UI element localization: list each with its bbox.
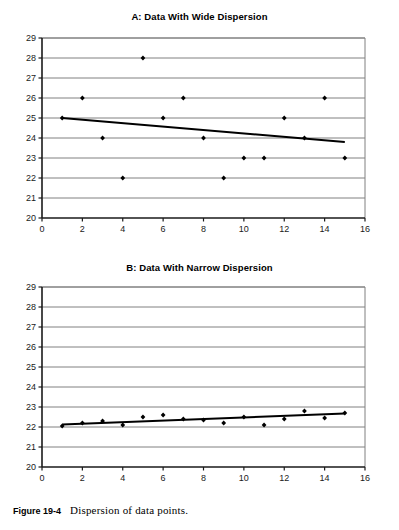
x-tick-label-14: 14 [320, 224, 330, 234]
y-tick-label-25: 25 [26, 113, 36, 123]
figure-caption-label: Figure 19-4 [13, 506, 61, 516]
data-point [282, 417, 287, 422]
y-tick-label-23: 23 [26, 153, 36, 163]
x-tick-label-10: 10 [239, 224, 249, 234]
data-point [282, 116, 287, 121]
data-point [161, 116, 166, 121]
chart-b-svg: 202122232425262728290246810121416 [0, 273, 399, 483]
y-tick-label-29: 29 [26, 33, 36, 43]
data-point [181, 96, 186, 101]
data-point [161, 413, 166, 418]
y-tick-label-22: 22 [26, 173, 36, 183]
y-tick-label-26: 26 [26, 93, 36, 103]
data-point [221, 421, 226, 426]
x-tick-label-14: 14 [320, 473, 330, 483]
data-point [80, 96, 85, 101]
data-point [141, 56, 146, 61]
x-tick-label-4: 4 [120, 473, 125, 483]
y-tick-label-29: 29 [26, 282, 36, 292]
data-point [262, 156, 267, 161]
x-tick-label-2: 2 [80, 473, 85, 483]
data-point [241, 156, 246, 161]
x-tick-label-12: 12 [279, 473, 289, 483]
y-tick-label-24: 24 [26, 133, 36, 143]
figure-19-4: A: Data With Wide Dispersion 20212223242… [0, 0, 399, 530]
chart-a-plot: 202122232425262728290246810121416 [0, 22, 399, 247]
y-tick-label-24: 24 [26, 382, 36, 392]
y-tick-label-21: 21 [26, 442, 36, 452]
data-point [201, 136, 206, 141]
figure-caption: Figure 19-4Dispersion of data points. [13, 504, 188, 516]
x-tick-label-8: 8 [201, 473, 206, 483]
y-tick-label-25: 25 [26, 362, 36, 372]
x-tick-label-16: 16 [360, 473, 370, 483]
x-tick-label-2: 2 [80, 224, 85, 234]
chart-panel-a: A: Data With Wide Dispersion 20212223242… [0, 0, 399, 252]
data-point [60, 116, 65, 121]
y-tick-label-20: 20 [26, 213, 36, 223]
x-tick-label-0: 0 [39, 224, 44, 234]
chart-a-title: A: Data With Wide Dispersion [0, 0, 399, 22]
chart-a-svg: 202122232425262728290246810121416 [0, 22, 399, 247]
x-tick-label-6: 6 [161, 224, 166, 234]
data-point [221, 176, 226, 181]
data-point [342, 156, 347, 161]
data-point [241, 415, 246, 420]
x-tick-label-12: 12 [279, 224, 289, 234]
y-tick-label-23: 23 [26, 402, 36, 412]
x-tick-label-10: 10 [239, 473, 249, 483]
data-point [302, 409, 307, 414]
y-tick-label-27: 27 [26, 73, 36, 83]
y-tick-label-28: 28 [26, 53, 36, 63]
chart-b-plot: 202122232425262728290246810121416 [0, 273, 399, 483]
x-tick-label-4: 4 [120, 224, 125, 234]
data-point [141, 415, 146, 420]
x-tick-label-8: 8 [201, 224, 206, 234]
data-point [120, 176, 125, 181]
data-point [322, 96, 327, 101]
x-tick-label-0: 0 [39, 473, 44, 483]
y-tick-label-28: 28 [26, 302, 36, 312]
data-point [100, 136, 105, 141]
data-point [342, 411, 347, 416]
y-tick-label-22: 22 [26, 422, 36, 432]
chart-panel-b: B: Data With Narrow Dispersion 202122232… [0, 252, 399, 500]
y-tick-label-20: 20 [26, 462, 36, 472]
figure-caption-text: Dispersion of data points. [70, 504, 188, 516]
chart-b-title: B: Data With Narrow Dispersion [0, 252, 399, 273]
x-tick-label-16: 16 [360, 224, 370, 234]
data-point [322, 416, 327, 421]
y-tick-label-26: 26 [26, 342, 36, 352]
x-tick-label-6: 6 [161, 473, 166, 483]
y-tick-label-27: 27 [26, 322, 36, 332]
y-tick-label-21: 21 [26, 193, 36, 203]
